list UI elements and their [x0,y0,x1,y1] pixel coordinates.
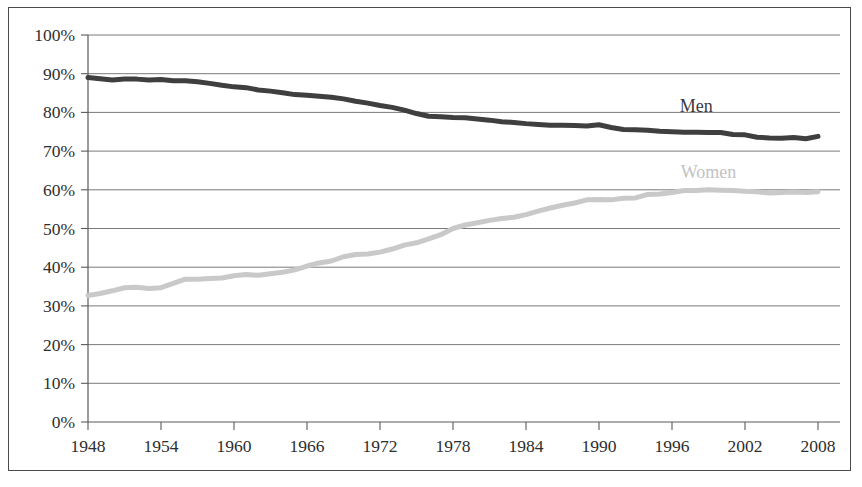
y-tick-label: 10% [43,373,75,393]
series-label-men: Men [680,96,713,116]
x-tick-label: 1948 [71,436,106,456]
x-tick-label: 1966 [290,436,325,456]
x-tick-label: 1978 [436,436,471,456]
y-tick-label: 70% [43,141,75,161]
y-tick-label: 90% [43,64,75,84]
y-tick-label: 60% [43,180,75,200]
x-tick-labels-group: 1948195419601966197219781984199019962002… [71,436,836,456]
x-tick-label: 2008 [801,436,836,456]
y-axis-group [81,35,88,422]
y-tick-label: 20% [43,335,75,355]
gridlines-group [88,35,840,383]
chart-page: 100%90%80%70%60%50%40%30%20%10%0% 194819… [0,0,862,487]
y-tick-label: 30% [43,296,75,316]
series-annotations-group: MenWomen [680,96,736,182]
x-tick-label: 1972 [363,436,398,456]
y-tick-labels-group: 100%90%80%70%60%50%40%30%20%10%0% [34,25,75,432]
series-line-women [88,190,818,296]
x-tick-label: 1984 [509,436,544,456]
x-tick-label: 1954 [144,436,179,456]
y-tick-label: 80% [43,102,75,122]
y-tick-label: 50% [43,219,75,239]
x-tick-label: 1990 [582,436,617,456]
y-tick-label: 40% [43,257,75,277]
x-tick-label: 1960 [217,436,252,456]
y-tick-label: 100% [34,25,75,45]
line-chart: 100%90%80%70%60%50%40%30%20%10%0% 194819… [0,0,862,487]
y-tick-label: 0% [52,412,75,432]
x-tick-label: 2002 [728,436,763,456]
x-tick-label: 1996 [655,436,690,456]
x-axis-group [88,422,840,430]
series-label-women: Women [681,162,737,182]
